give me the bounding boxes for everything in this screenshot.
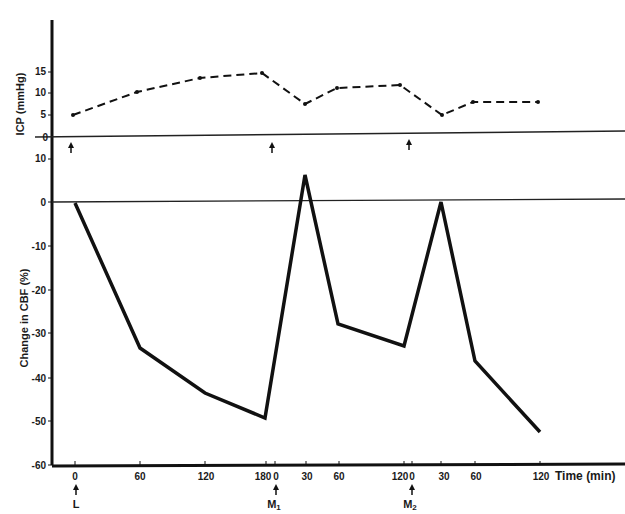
icp-tick-10: 10 xyxy=(35,87,47,98)
icp-tick-15: 15 xyxy=(35,66,47,77)
chart-figure: 15 10 5 0 ICP (mmHg) 10 0 -10 -20 -30 -4… xyxy=(0,0,625,514)
x-tick-M1-60: 60 xyxy=(333,471,345,482)
arrow-up-icon xyxy=(68,142,74,153)
icp-tick-0: 0 xyxy=(42,132,48,143)
event-marker-M2: M2 xyxy=(403,484,417,512)
x-tick-M2-120: 120 xyxy=(533,471,550,482)
icp-y-ticks: 15 10 5 0 xyxy=(35,66,52,143)
cbf-y-ticks: 10 0 -10 -20 -30 -40 -50 -60 xyxy=(32,153,52,471)
x-tick-L-60: 60 xyxy=(134,471,146,482)
arrow-up-icon xyxy=(269,142,275,153)
x-tick-M2-0: 0 xyxy=(409,471,415,482)
arrow-up-icon xyxy=(273,484,279,495)
x-axis-title: Time (min) xyxy=(555,469,615,483)
x-tick-M2-60: 60 xyxy=(470,471,482,482)
x-tick-labels: 0 60 120 180 0 30 60 120 0 30 60 120 xyxy=(72,471,550,482)
x-tick-M1-0: 0 xyxy=(273,471,279,482)
x-tick-L-0: 0 xyxy=(72,471,78,482)
icp-zero-line xyxy=(35,131,625,137)
x-tick-M1-120: 120 xyxy=(392,471,409,482)
cbf-tick-minus40: -40 xyxy=(32,373,47,384)
arrow-up-icon xyxy=(409,484,415,495)
marker-label-M2: M2 xyxy=(403,498,417,512)
cbf-tick-minus60: -60 xyxy=(32,460,47,471)
event-marker-M1: M1 xyxy=(267,484,281,512)
cbf-tick-minus10: -10 xyxy=(32,241,47,252)
icp-series-markers xyxy=(71,71,540,117)
icp-series-line xyxy=(73,73,538,115)
cbf-zero-line xyxy=(52,199,625,202)
arrow-up-icon xyxy=(406,139,412,150)
x-tick-M2-30: 30 xyxy=(438,471,450,482)
cbf-tick-10: 10 xyxy=(35,153,47,164)
icp-tick-5: 5 xyxy=(40,109,46,120)
cbf-axis-title: Change in CBF (%) xyxy=(18,268,30,367)
marker-label-L: L xyxy=(73,498,80,510)
marker-label-M1: M1 xyxy=(267,498,281,512)
cbf-tick-minus30: -30 xyxy=(32,328,47,339)
icp-event-arrows xyxy=(68,139,412,153)
cbf-tick-0: 0 xyxy=(40,197,46,208)
x-tick-L-120: 120 xyxy=(198,471,215,482)
cbf-series-line xyxy=(75,175,540,432)
event-marker-L: L xyxy=(73,484,80,510)
cbf-tick-minus50: -50 xyxy=(32,416,47,427)
x-tick-L-180: 180 xyxy=(255,471,272,482)
icp-axis-title: ICP (mmHg) xyxy=(14,72,26,135)
x-tick-M1-30: 30 xyxy=(301,471,313,482)
arrow-up-icon xyxy=(73,484,79,495)
cbf-tick-minus20: -20 xyxy=(32,285,47,296)
